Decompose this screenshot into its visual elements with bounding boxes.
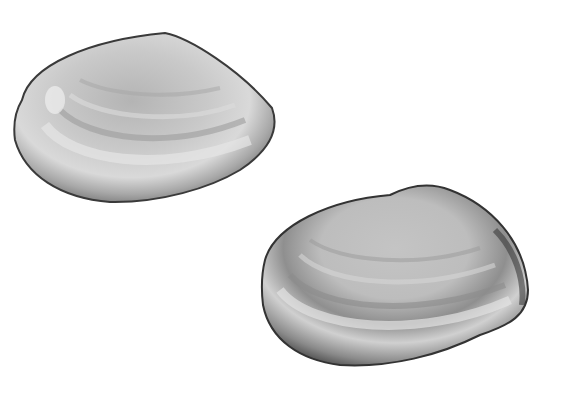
lower-right-shell (262, 185, 528, 365)
shells-illustration (0, 0, 566, 404)
upper-left-shell (14, 33, 274, 202)
photo-canvas (0, 0, 566, 404)
